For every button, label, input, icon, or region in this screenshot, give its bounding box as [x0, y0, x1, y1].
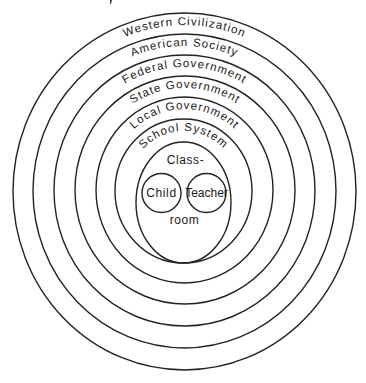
- classroom-label-bottom: room: [170, 213, 200, 227]
- nested-environment-diagram: Western CivilizationAmerican SocietyFede…: [0, 0, 366, 383]
- cropped-caption-fragment: [110, 0, 112, 4]
- ring-school-system: [115, 119, 252, 263]
- child-label: Child: [146, 186, 176, 200]
- teacher-label: Teacher: [185, 186, 228, 200]
- classroom-label-top: Class-: [167, 153, 205, 167]
- ring-label-school-system: School System: [136, 121, 231, 151]
- ring-labels-layer: Western CivilizationAmerican SocietyFede…: [120, 15, 249, 150]
